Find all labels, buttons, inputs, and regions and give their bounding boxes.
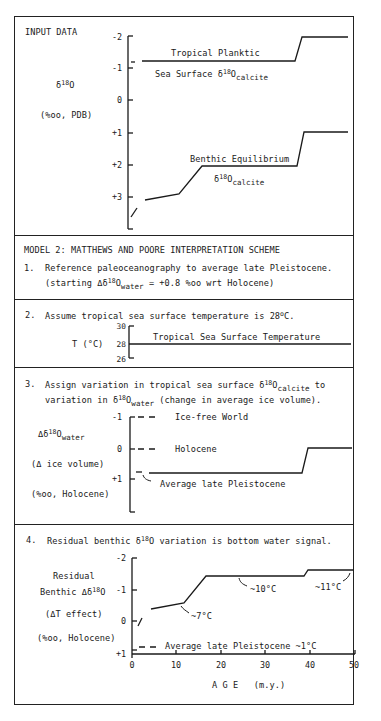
step3-ytick: -1	[100, 413, 122, 421]
input-ylabel-units: (%oo, PDB)	[40, 111, 92, 120]
input-ylabel: δ18O	[56, 80, 74, 90]
step4-ylabel-4: (%oo, Holocene)	[37, 634, 115, 643]
input-data-title: INPUT DATA	[25, 28, 77, 37]
input-ytick: 0	[100, 96, 122, 104]
step1-text: Reference paleoceanography to average la…	[45, 264, 332, 273]
step4-ylabel-2: Benthic Δδ18O	[40, 587, 105, 597]
sst-line-label: Tropical Sea Surface Temperature	[153, 333, 320, 342]
step2-ytick: 30	[104, 323, 126, 331]
annotation-10c: ~10°C	[250, 585, 276, 594]
step4-text: Residual benthic δ18O variation is botto…	[47, 536, 332, 546]
step3-ylabel-2: (Δ ice volume)	[31, 460, 104, 469]
step3-ytick: 0	[100, 445, 122, 453]
benthic-label-sub: δ18Ocalcite	[214, 174, 264, 187]
step4-xtick: 0	[121, 661, 143, 669]
step2-ytick: 28	[104, 341, 126, 349]
step4-ytick: 0	[104, 617, 126, 625]
annotation-pleistocene: Average late Pleistocene ~1°C	[165, 642, 317, 651]
step4-ytick: -2	[104, 554, 126, 562]
step4-ylabel-1: Residual	[53, 572, 95, 581]
step3-ytick: +1	[100, 475, 122, 483]
step3-text-line2: variation in δ18Owater (change in averag…	[45, 395, 321, 408]
divider-input-model	[14, 235, 354, 236]
annotation-11c: ~11°C	[315, 583, 341, 592]
annotation-7c: ~7°C	[191, 612, 212, 621]
x-axis-label: A G E (m.y.)	[212, 681, 285, 690]
input-ytick: -2	[100, 33, 122, 41]
step4-xtick: 30	[254, 661, 276, 669]
step4-xtick: 20	[210, 661, 232, 669]
step3-number: 3.	[25, 380, 35, 389]
benthic-label: Benthic Equilibrium	[190, 155, 289, 164]
input-ytick: +1	[100, 129, 122, 137]
step4-xtick: 10	[165, 661, 187, 669]
planktic-label-sub: Sea Surface δ18Ocalcite	[155, 69, 268, 82]
step3-text-line1: Assign variation in tropical sea surface…	[45, 380, 325, 393]
step4-xtick: 40	[299, 661, 321, 669]
step3-ylabel: Δδ18Owater	[38, 429, 84, 442]
divider-step1-step2	[14, 299, 354, 300]
step2-text: Assume tropical sea surface temperature …	[45, 311, 295, 321]
step4-ytick: -1	[104, 586, 126, 594]
divider-step2-step3	[14, 367, 354, 368]
divider-step3-step4	[14, 524, 354, 525]
step4-ytick: +1	[104, 650, 126, 658]
step4-ylabel-3: (ΔT effect)	[45, 610, 102, 619]
ref-label-icefree: Ice-free World	[175, 413, 248, 422]
step2-ylabel: T (°C)	[72, 340, 103, 349]
input-ytick: -1	[100, 64, 122, 72]
ref-label-holocene: Holocene	[175, 445, 217, 454]
step1-number: 1.	[24, 264, 34, 273]
planktic-label: Tropical Planktic	[171, 49, 260, 58]
model-title: MODEL 2: MATTHEWS AND POORE INTERPRETATI…	[24, 246, 280, 255]
step2-ytick: 26	[104, 356, 126, 364]
step2-number: 2.	[25, 311, 35, 320]
step4-xtick: 50	[343, 661, 365, 669]
input-ytick: +3	[100, 193, 122, 201]
input-ytick: +2	[100, 161, 122, 169]
step3-ylabel-3: (%oo, Holocene)	[31, 490, 109, 499]
step4-number: 4.	[26, 536, 36, 545]
ref-label-pleistocene: Average late Pleistocene	[160, 480, 285, 489]
step1-text-line2: (starting Δδ18Owater = +0.8 %oo wrt Holo…	[45, 278, 274, 291]
